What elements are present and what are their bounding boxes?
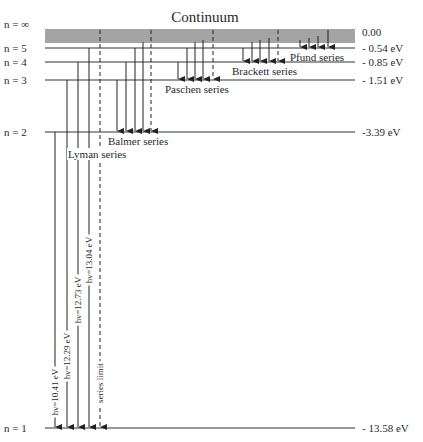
level-n-label: n = 3 bbox=[4, 74, 27, 86]
series-brackett: Brackett series bbox=[232, 30, 297, 77]
continuum-title: Continuum bbox=[171, 9, 239, 25]
series-name-label: Pfund series bbox=[290, 51, 344, 63]
series-name-label: Lyman series bbox=[68, 148, 126, 160]
level-energy-label: - 13.58 eV bbox=[362, 422, 409, 434]
series-name-label: Brackett series bbox=[232, 65, 297, 77]
series-limit-label: series limit bbox=[95, 363, 105, 403]
energy-level-diagram: Continuum n = ∞0.00n = 5- 0.54 eVn = 4- … bbox=[0, 0, 423, 442]
level-energy-label: 0.00 bbox=[362, 26, 382, 38]
hydrogen-energy-levels-svg: Continuum n = ∞0.00n = 5- 0.54 eVn = 4- … bbox=[0, 0, 423, 442]
level-energy-label: - 1.51 eV bbox=[362, 74, 403, 86]
level-n-label: n = 5 bbox=[4, 42, 27, 54]
series-pfund: Pfund series bbox=[290, 30, 344, 63]
photon-energy-label: hν=12.73 eV bbox=[73, 276, 83, 323]
level-n-label: n = 4 bbox=[4, 56, 27, 68]
level-energy-label: - 0.54 eV bbox=[362, 42, 403, 54]
series-lyman: hν=10.41 eVhν=12.29 eVhν=12.73 eVhν=13.0… bbox=[50, 30, 127, 427]
level-n-label: n = 2 bbox=[4, 126, 27, 138]
level-n-label: n = 1 bbox=[4, 422, 27, 434]
photon-energy-label: hν=12.29 eV bbox=[62, 332, 72, 379]
series-name-label: Paschen series bbox=[165, 83, 229, 95]
level-n-label: n = ∞ bbox=[4, 18, 29, 30]
spectral-series: hν=10.41 eVhν=12.29 eVhν=12.73 eVhν=13.0… bbox=[50, 30, 344, 427]
level-energy-label: - 0.85 eV bbox=[362, 56, 403, 68]
series-name-label: Balmer series bbox=[108, 135, 168, 147]
photon-energy-label: hν=13.04 eV bbox=[84, 236, 94, 283]
photon-energy-label: hν=10.41 eV bbox=[50, 368, 60, 415]
level-energy-label: -3.39 eV bbox=[362, 126, 401, 138]
